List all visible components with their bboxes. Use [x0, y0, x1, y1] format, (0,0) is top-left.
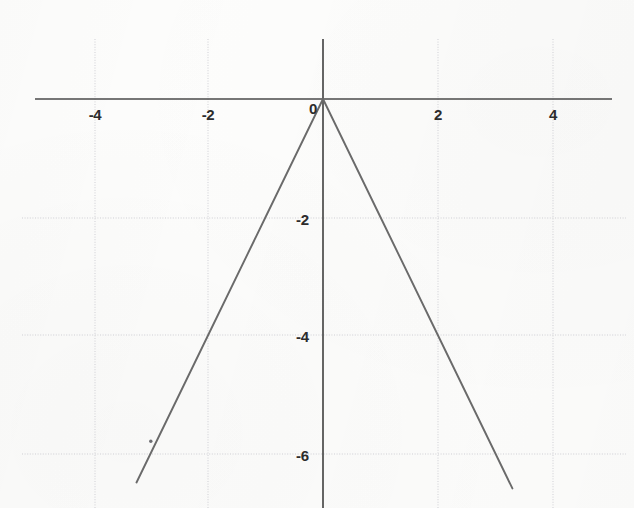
x-tick-label-2: 2	[434, 107, 442, 122]
y-tick-label--6: -6	[296, 448, 309, 463]
x-tick-label--4: -4	[89, 107, 102, 122]
x-tick-label-4: 4	[549, 107, 557, 122]
grid-lines	[22, 39, 626, 508]
coordinate-plane-svg	[0, 0, 634, 508]
axes	[35, 39, 612, 508]
function-curve	[137, 99, 513, 488]
x-tick-label--2: -2	[202, 107, 215, 122]
x-tick-label-0: 0	[309, 101, 317, 116]
graph-screenshot: -4 -2 0 2 4 -2 -4 -6	[0, 0, 634, 508]
plot-area	[0, 0, 634, 508]
y-tick-label--4: -4	[296, 329, 309, 344]
scan-speck	[149, 440, 152, 443]
curve-left-branch	[137, 99, 324, 483]
y-tick-label--2: -2	[296, 212, 309, 227]
curve-right-branch	[323, 99, 512, 488]
